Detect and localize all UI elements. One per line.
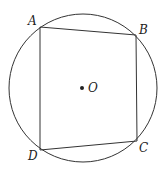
center-point — [80, 86, 84, 90]
label-a: A — [27, 14, 37, 28]
label-c: C — [139, 141, 148, 155]
geometry-figure: A B C D O — [0, 0, 164, 173]
label-d: D — [27, 149, 38, 163]
label-b: B — [138, 23, 148, 37]
label-o: O — [88, 81, 98, 95]
circle-diagram: A B C D O — [0, 0, 164, 173]
